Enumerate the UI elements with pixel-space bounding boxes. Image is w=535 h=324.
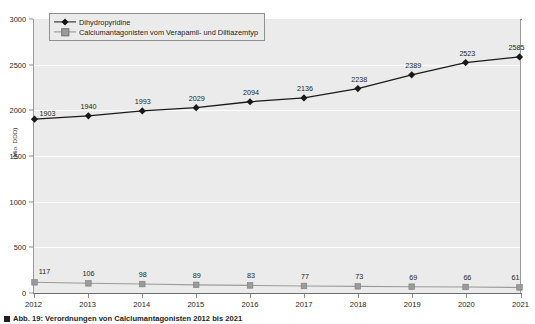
data-point-label: 73 [355, 272, 363, 281]
chart-figure: (Mio. DDD) 050010001500200025003000 1903… [0, 0, 535, 324]
data-point-marker [517, 285, 523, 291]
caption-text: Abb. 19: Verordnungen von Calciumantagon… [13, 314, 242, 323]
x-tick-mark [142, 294, 143, 298]
data-point-marker [355, 284, 361, 290]
data-point-label: 2585 [509, 43, 525, 52]
series-line [34, 282, 519, 287]
data-point-label: 69 [409, 273, 417, 282]
data-point-marker [86, 281, 92, 287]
x-tick-label: 2016 [241, 300, 258, 309]
x-tick-label: 2012 [25, 300, 42, 309]
data-point-marker [32, 280, 38, 286]
x-tick-mark [88, 294, 89, 298]
x-axis-tick-labels: 2012201320142015201620172018201920202021 [0, 294, 535, 316]
data-point-label: 2523 [459, 49, 475, 58]
data-point-label: 98 [139, 270, 147, 279]
figure-caption: Abb. 19: Verordnungen von Calciumantagon… [4, 314, 524, 323]
y-tick-label: 2500 [10, 60, 26, 69]
x-tick-label: 2018 [350, 300, 367, 309]
data-point-marker [193, 104, 200, 111]
data-point-marker [246, 98, 253, 105]
x-tick-mark [34, 294, 35, 298]
x-tick-mark [358, 294, 359, 298]
data-point-label: 117 [39, 267, 50, 276]
x-tick-label: 2017 [296, 300, 313, 309]
data-point-label: 1903 [40, 109, 56, 118]
legend-item-dihydropyridine: Dihydropyridine [54, 17, 258, 27]
data-point-marker [301, 283, 307, 289]
data-point-marker [516, 53, 523, 60]
data-point-label: 66 [463, 273, 471, 282]
caption-bullet-icon [4, 316, 10, 322]
x-tick-label: 2013 [79, 300, 96, 309]
data-point-label: 2389 [405, 61, 421, 70]
square-marker-icon [54, 27, 76, 37]
y-tick-label: 3000 [10, 15, 26, 24]
data-point-marker [409, 284, 415, 290]
legend-label-series-2: Calciumantagonisten vom Verapamil- und D… [79, 28, 258, 37]
x-tick-mark [304, 294, 305, 298]
x-tick-label: 2014 [133, 300, 150, 309]
data-point-label: 61 [512, 273, 520, 282]
data-point-marker [247, 283, 253, 289]
data-point-label: 2094 [243, 88, 259, 97]
data-point-label: 89 [193, 271, 201, 280]
y-tick-label: 1500 [10, 152, 26, 161]
series-line [34, 57, 519, 119]
legend-item-calciumantagonisten: Calciumantagonisten vom Verapamil- und D… [54, 27, 258, 37]
data-point-marker [193, 282, 199, 288]
legend-label-series-1: Dihydropyridine [79, 18, 130, 27]
data-point-marker [85, 112, 92, 119]
data-point-label: 83 [247, 271, 255, 280]
data-point-label: 2238 [351, 75, 367, 84]
data-point-label: 1993 [135, 97, 151, 106]
x-tick-label: 2020 [458, 300, 475, 309]
x-tick-mark [412, 294, 413, 298]
x-tick-mark [196, 294, 197, 298]
y-axis-tick-labels: 050010001500200025003000 [0, 0, 30, 324]
chart-legend: Dihydropyridine Calciumantagonisten vom … [49, 13, 265, 41]
y-tick-label: 1000 [10, 197, 26, 206]
data-point-label: 1940 [81, 102, 97, 111]
plot-area: 1903194019932029209421362238238925232585… [33, 19, 521, 293]
data-point-marker [31, 116, 38, 123]
y-tick-label: 2000 [10, 106, 26, 115]
x-tick-mark [466, 294, 467, 298]
data-point-marker [462, 59, 469, 66]
x-tick-label: 2015 [187, 300, 204, 309]
x-tick-label: 2019 [404, 300, 421, 309]
data-point-marker [408, 71, 415, 78]
data-point-marker [139, 281, 145, 287]
x-tick-mark [250, 294, 251, 298]
diamond-marker-icon [54, 17, 76, 27]
data-point-marker [139, 107, 146, 114]
data-point-label: 106 [83, 269, 95, 278]
data-point-label: 77 [301, 272, 309, 281]
x-tick-mark [521, 294, 522, 298]
data-point-marker [463, 284, 469, 290]
data-point-marker [300, 94, 307, 101]
y-tick-label: 500 [14, 243, 26, 252]
x-tick-label: 2021 [512, 300, 529, 309]
data-point-marker [354, 85, 361, 92]
data-point-label: 2029 [189, 94, 205, 103]
data-point-label: 2136 [297, 84, 313, 93]
data-series-layer [34, 19, 520, 293]
